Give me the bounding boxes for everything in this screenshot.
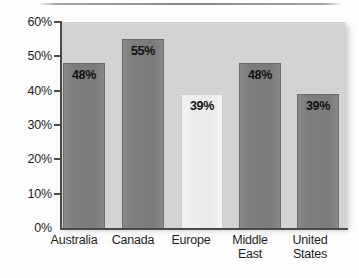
y-tick-label-30: 30% bbox=[4, 119, 52, 132]
bar-value-middle-east: 48% bbox=[240, 69, 280, 82]
bar-europe[interactable]: 39% bbox=[181, 94, 223, 228]
y-tick-label-50: 50% bbox=[4, 50, 52, 63]
y-tick-mark-40 bbox=[54, 90, 61, 92]
bar-australia[interactable]: 48% bbox=[63, 63, 105, 228]
bar-middle-east[interactable]: 48% bbox=[239, 63, 281, 228]
category-label-canada-line1: Canada bbox=[112, 233, 155, 247]
y-tick-label-10: 10% bbox=[4, 188, 52, 201]
category-label-united-states-line1: United bbox=[293, 233, 328, 247]
category-label-europe-line1: Europe bbox=[171, 233, 210, 247]
bar-chart-figure: 48% 55% 39% 48% 39% 60% 50% 40% 30% 20% … bbox=[0, 0, 359, 278]
bar-value-united-states: 39% bbox=[298, 100, 338, 113]
y-tick-mark-50 bbox=[54, 55, 61, 57]
bar-united-states[interactable]: 39% bbox=[297, 94, 339, 228]
category-label-middle-east: Middle East bbox=[216, 233, 284, 261]
category-label-united-states-line2: States bbox=[276, 247, 344, 261]
category-label-united-states: United States bbox=[276, 233, 344, 261]
bar-value-australia: 48% bbox=[64, 69, 104, 82]
y-tick-label-60: 60% bbox=[4, 16, 52, 29]
plot-area: 48% 55% 39% 48% 39% bbox=[61, 22, 346, 228]
bar-canada[interactable]: 55% bbox=[122, 39, 164, 228]
y-tick-mark-30 bbox=[54, 124, 61, 126]
category-label-middle-east-line1: Middle bbox=[232, 233, 268, 247]
bar-value-europe: 39% bbox=[182, 100, 222, 113]
scan-artifact-line bbox=[38, 3, 343, 5]
x-axis-line bbox=[60, 228, 348, 230]
category-label-middle-east-line2: East bbox=[216, 247, 284, 261]
category-label-europe: Europe bbox=[157, 233, 225, 247]
y-tick-label-20: 20% bbox=[4, 153, 52, 166]
y-tick-mark-20 bbox=[54, 158, 61, 160]
y-tick-mark-60 bbox=[54, 21, 61, 23]
y-tick-mark-10 bbox=[54, 193, 61, 195]
y-tick-label-40: 40% bbox=[4, 85, 52, 98]
category-label-australia-line1: Australia bbox=[51, 233, 98, 247]
bar-value-canada: 55% bbox=[123, 45, 163, 58]
